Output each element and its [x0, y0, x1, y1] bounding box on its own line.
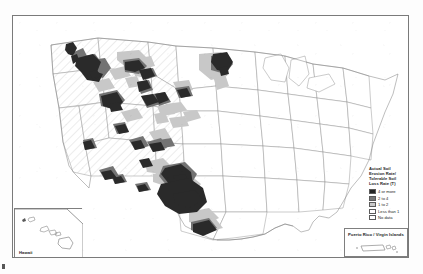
legend-item-label: No data — [378, 215, 392, 220]
legend-swatch-icon — [369, 202, 376, 207]
puerto-rico-islands — [345, 229, 409, 258]
legend-item-4-or-more[interactable]: 4 or more — [369, 189, 409, 194]
legend-item-label: 1 to 2 — [378, 202, 388, 207]
legend-swatch-icon — [369, 215, 376, 220]
inset-puerto-rico: Puerto Rico / Virgin Islands — [344, 228, 408, 257]
legend-item-2-to-4[interactable]: 2 to 4 — [369, 196, 409, 201]
legend-swatch-icon — [369, 196, 376, 201]
legend-swatch-icon — [369, 209, 376, 214]
inset-label-hawaii: Hawaii — [19, 250, 33, 255]
legend-item-label: 4 or more — [378, 189, 396, 194]
legend-swatch-icon — [369, 189, 376, 194]
legend-item-label: Less than 1 — [378, 209, 399, 214]
figure-page: Actual Soil Erosion Rate/ Tolerable Soil… — [0, 0, 423, 274]
map-legend: Actual Soil Erosion Rate/ Tolerable Soil… — [367, 166, 409, 222]
inset-hawaii: Hawaii — [14, 208, 82, 257]
legend-item-1-to-2[interactable]: 1 to 2 — [369, 202, 409, 207]
legend-title: Actual Soil Erosion Rate/ Tolerable Soil… — [369, 166, 409, 186]
scan-corner-artifact — [2, 264, 5, 269]
legend-item-label: 2 to 4 — [378, 196, 388, 201]
legend-item-less-than-1[interactable]: Less than 1 — [369, 209, 409, 214]
legend-item-no-data[interactable]: No data — [369, 215, 409, 220]
